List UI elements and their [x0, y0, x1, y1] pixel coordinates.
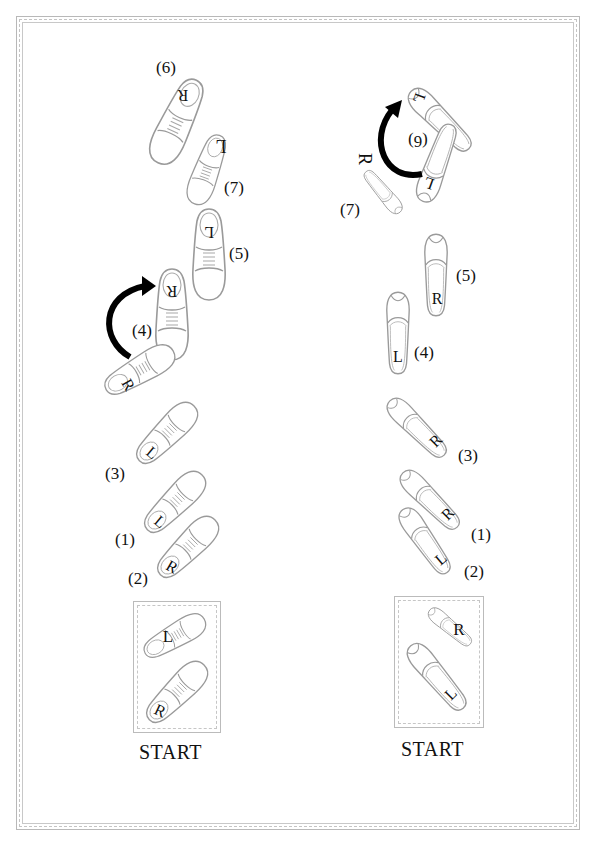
svg-text:R: R: [166, 283, 177, 300]
left-step-3-shoe: [130, 396, 204, 470]
left-step-7-label: (7): [224, 178, 244, 198]
left-step-5-shoe: [193, 209, 225, 300]
svg-text:L: L: [163, 627, 173, 646]
left-step-1-label: (1): [115, 530, 135, 550]
left-step-6-label: (6): [156, 58, 176, 78]
right-step-7-label: (7): [340, 200, 360, 220]
right-step-6-label: (6): [408, 131, 428, 151]
left-step-2-label: (2): [128, 569, 148, 589]
footprint-diagram: R L L R R L L R L R: [0, 0, 589, 849]
left-step-4-label: (4): [132, 321, 152, 341]
svg-text:L: L: [204, 224, 214, 241]
left-start-L-shoe: [139, 609, 210, 664]
svg-text:R: R: [177, 87, 188, 104]
left-step-3-label: (3): [105, 464, 125, 484]
left-turn-arrowhead-icon: [142, 276, 156, 296]
right-step-3-shoe: [382, 393, 451, 462]
svg-text:L: L: [216, 136, 227, 156]
right-start-L-shoe: [402, 639, 472, 716]
right-step-5-label: (5): [456, 266, 476, 286]
left-step-5-label: (5): [229, 244, 249, 264]
svg-text:R: R: [453, 620, 465, 639]
right-start-R-shoe: [425, 604, 475, 649]
right-step-4-label: (4): [414, 343, 434, 363]
svg-text:R: R: [432, 290, 443, 307]
svg-text:L: L: [393, 348, 403, 365]
left-start-label: START: [139, 741, 202, 764]
left-step-4-pivot-shoe: [99, 339, 180, 401]
left-start-R-shoe: [140, 655, 214, 729]
right-step-3-label: (3): [458, 446, 478, 466]
svg-text:R: R: [355, 153, 375, 165]
right-step-1-label: (1): [471, 525, 491, 545]
right-start-label: START: [401, 738, 464, 761]
right-step-2-label: (2): [464, 562, 484, 582]
